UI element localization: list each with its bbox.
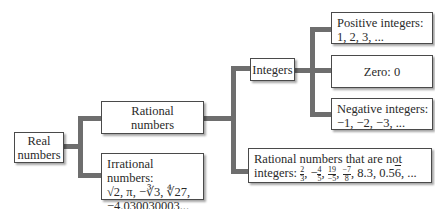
fraction-sign: − xyxy=(310,166,317,180)
fraction-denominator: 3 xyxy=(300,174,304,183)
non-integer-prefix: integers: xyxy=(254,166,297,180)
non-integer-tail: , ... xyxy=(401,166,417,180)
fraction: 19−5 xyxy=(328,166,337,183)
connector-to-negative xyxy=(310,112,331,117)
fraction-numerator: 19 xyxy=(328,166,337,174)
connector-to-irrational xyxy=(78,173,101,178)
negative-examples: −1, −2, −3, ... xyxy=(337,116,432,130)
node-negative-integers: Negative integers: −1, −2, −3, ... xyxy=(331,98,433,130)
rational-line1: Rational xyxy=(131,104,174,118)
node-irrational-numbers: Irrational numbers: √2, π, −∛3, ∜27, −4.… xyxy=(101,153,204,200)
fraction-numerator: 4 xyxy=(317,166,321,174)
connector-to-integers xyxy=(231,66,250,71)
node-real-numbers: Real numbers xyxy=(14,132,64,163)
fraction-denominator: 8 xyxy=(343,174,352,183)
negative-title: Negative integers: xyxy=(337,102,432,116)
real-line1: Real xyxy=(17,134,60,148)
irrational-examples-1: √2, π, −∛3, ∜27, xyxy=(107,185,203,199)
fraction-denominator: −5 xyxy=(328,174,337,183)
connector-to-zero xyxy=(310,68,331,73)
positive-examples: 1, 2, 3, ... xyxy=(337,30,432,44)
connector-real-trunk xyxy=(78,116,83,178)
decimal-2-base: 0.5 xyxy=(379,166,395,180)
node-integers: Integers xyxy=(250,58,295,81)
rational-line2: numbers xyxy=(131,118,174,132)
fraction-denominator: 5 xyxy=(317,174,321,183)
fraction: 45 xyxy=(317,166,321,183)
connector-to-rational xyxy=(78,116,101,121)
node-positive-integers: Positive integers: 1, 2, 3, ... xyxy=(331,12,433,44)
fraction: 23 xyxy=(300,166,304,183)
integers-label: Integers xyxy=(252,63,292,77)
positive-title: Positive integers: xyxy=(337,16,432,30)
zero-label: Zero: 0 xyxy=(364,65,400,79)
connector-to-non-integers xyxy=(231,169,248,174)
non-integer-title: Rational numbers that are not xyxy=(254,152,431,166)
non-integer-examples: integers: 23, −45, 19−5, −78, 8.3, 0.56,… xyxy=(254,166,431,183)
node-rational-numbers: Rational numbers xyxy=(101,101,204,134)
fraction: −78 xyxy=(343,166,352,183)
irrational-examples-2: −4.030030003..., ... xyxy=(107,199,203,209)
connector-to-positive xyxy=(310,27,331,32)
real-line2: numbers xyxy=(17,148,60,162)
node-zero: Zero: 0 xyxy=(331,55,433,88)
decimal-1: 8.3 xyxy=(357,166,373,180)
connector-rational-trunk xyxy=(231,66,236,174)
fraction-list: 23, −45, 19−5, −78 xyxy=(300,166,351,180)
node-non-integer-rationals: Rational numbers that are not integers: … xyxy=(248,148,432,183)
fraction-numerator: −7 xyxy=(343,166,352,174)
irrational-title: Irrational numbers: xyxy=(107,157,203,185)
fraction-numerator: 2 xyxy=(300,166,304,174)
